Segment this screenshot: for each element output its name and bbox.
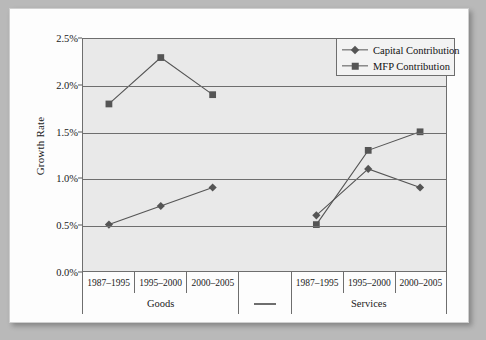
- group-label-row: GoodsServices: [82, 293, 447, 314]
- gridline: [83, 179, 446, 180]
- diamond-marker-icon: [341, 43, 369, 57]
- y-axis-tick-label: 2.0%: [36, 79, 78, 90]
- y-axis-tick-label: 0.5%: [36, 220, 78, 231]
- series-line: [109, 58, 213, 104]
- legend-item-capital-contribution: Capital Contribution: [341, 42, 450, 58]
- y-axis-tick-label: 2.5%: [36, 33, 78, 44]
- data-point-square: [365, 147, 372, 154]
- gap-dash-icon: [254, 303, 276, 305]
- period-label-cell: 1995–2000: [343, 272, 395, 293]
- data-point-square: [209, 91, 216, 98]
- legend-item-mfp-contribution: MFP Contribution: [341, 58, 450, 74]
- data-point-square: [106, 101, 113, 108]
- gridline: [83, 133, 446, 134]
- period-label-cell: 2000–2005: [395, 272, 447, 293]
- group-label-cell: Services: [291, 293, 447, 314]
- growth-rate-line-chart: Growth Rate 0.0%0.5%1.0%1.5%2.0%2.5% Cap…: [0, 0, 486, 340]
- data-point-diamond: [157, 202, 165, 210]
- gridline: [83, 86, 446, 87]
- chart-legend: Capital Contribution MFP Contribution: [336, 38, 455, 76]
- period-label-cell: 2000–2005: [186, 272, 238, 293]
- y-axis-tick-label: 1.0%: [36, 173, 78, 184]
- group-label-cell: Goods: [82, 293, 238, 314]
- legend-label: MFP Contribution: [369, 61, 450, 72]
- data-point-diamond: [209, 183, 217, 191]
- data-point-diamond: [416, 183, 424, 191]
- y-axis-tick-label: 0.0%: [36, 267, 78, 278]
- period-gap-cell: [238, 272, 290, 293]
- gridline: [83, 226, 446, 227]
- series-line: [316, 169, 420, 215]
- period-label-row: 1987–19951995–20002000–20051987–19951995…: [82, 272, 447, 293]
- period-label-cell: 1987–1995: [82, 272, 134, 293]
- data-point-square: [157, 54, 164, 61]
- y-axis-tick-labels: 0.0%0.5%1.0%1.5%2.0%2.5%: [34, 0, 78, 340]
- period-label-cell: 1987–1995: [291, 272, 343, 293]
- category-axis-table: 1987–19951995–20002000–20051987–19951995…: [82, 272, 447, 314]
- series-line: [316, 132, 420, 225]
- legend-label: Capital Contribution: [369, 45, 460, 56]
- period-label-cell: 1995–2000: [134, 272, 186, 293]
- group-gap-separator: [238, 293, 290, 314]
- square-marker-icon: [341, 59, 369, 73]
- data-point-diamond: [105, 221, 113, 229]
- y-axis-tick-label: 1.5%: [36, 126, 78, 137]
